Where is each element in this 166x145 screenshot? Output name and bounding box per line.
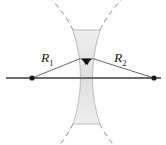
radius-label-r1-subscript: 1 (49, 58, 53, 68)
radius-line-r1 (32, 59, 81, 79)
lens-diagram-figure: R1 R2 (0, 0, 166, 145)
center-of-curvature-left (29, 75, 34, 80)
dashed-arc-left-lower (52, 124, 73, 145)
center-of-curvature-right (151, 75, 156, 80)
dashed-arc-right-upper (100, 0, 121, 30)
radius-label-r2: R2 (113, 50, 127, 68)
dashed-arc-right-lower (100, 124, 121, 145)
dashed-arc-left-upper (52, 0, 73, 30)
lens-diagram-svg: R1 R2 (0, 0, 166, 145)
radius-label-r2-subscript: 2 (122, 58, 126, 68)
radius-label-r1: R1 (40, 50, 54, 68)
